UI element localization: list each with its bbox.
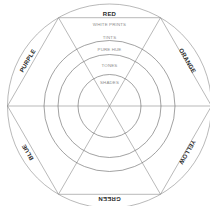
hue-label-blue: BLUE	[21, 143, 35, 161]
ring-label-shades: SHADES	[100, 80, 119, 85]
ring-label-tones: TONES	[102, 63, 118, 68]
color-wheel-diagram: RED ORANGE YELLOW GREEN BLUE PURPLE WHIT…	[0, 0, 210, 206]
hue-label-green: GREEN	[98, 196, 120, 202]
hue-label-orange: ORANGE	[178, 47, 197, 74]
hue-label-red: RED	[103, 11, 117, 17]
ring-label-tints: TINTS	[103, 35, 116, 40]
ring-label-pure-hue: PURE HUE	[98, 47, 122, 52]
hue-label-yellow: YELLOW	[178, 139, 197, 165]
ring-label-white-prints: WHITE PRINTS	[93, 22, 126, 27]
